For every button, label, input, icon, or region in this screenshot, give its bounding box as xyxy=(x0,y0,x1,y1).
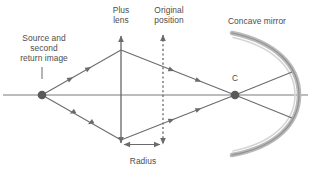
concave-mirror xyxy=(232,33,299,155)
source-point xyxy=(38,91,47,100)
plus-lens-label: Plus lens xyxy=(96,5,146,25)
ray-c-to-mirror-lower xyxy=(235,95,292,118)
diagram-canvas xyxy=(0,0,311,175)
ray-upper-right xyxy=(121,50,235,95)
radius-label: Radius xyxy=(112,156,174,166)
source-label: Source and second return image xyxy=(2,33,86,64)
ray-diagram: Source and second return image Plus lens… xyxy=(0,0,311,175)
ray-lower-right xyxy=(121,95,235,140)
ray-lower-left xyxy=(42,95,121,140)
ray-c-to-mirror-upper xyxy=(235,72,292,95)
center-of-curvature-label: C xyxy=(228,73,242,83)
concave-mirror-label: Concave mirror xyxy=(228,16,306,26)
center-of-curvature-point xyxy=(231,91,240,100)
original-position-label: Original position xyxy=(140,5,198,25)
